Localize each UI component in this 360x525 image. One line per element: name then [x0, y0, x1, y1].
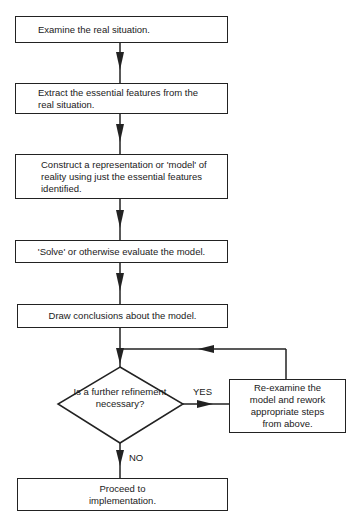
step-solve-text: 'Solve' or otherwise evaluate the model.	[38, 246, 205, 258]
step-construct-text: Construct a representation or 'model' of…	[41, 159, 213, 195]
step-construct: Construct a representation or 'model' of…	[15, 154, 228, 199]
step-extract: Extract the essential features from the …	[15, 83, 228, 114]
no-label: NO	[129, 452, 143, 464]
step-examine-text: Examine the real situation.	[38, 24, 150, 36]
step-solve: 'Solve' or otherwise evaluate the model.	[15, 240, 228, 263]
step-extract-text: Extract the essential features from the …	[38, 87, 213, 111]
step-reexamine-text: Re-examine the model and rework appropri…	[240, 382, 335, 430]
yes-label: YES	[193, 386, 212, 398]
step-implementation-text: Proceed to implementation.	[78, 483, 167, 507]
step-implementation: Proceed to implementation.	[17, 478, 228, 511]
step-reexamine: Re-examine the model and rework appropri…	[229, 379, 346, 433]
step-examine: Examine the real situation.	[15, 16, 228, 43]
step-conclude-text: Draw conclusions about the model.	[49, 310, 197, 322]
step-conclude: Draw conclusions about the model.	[17, 304, 228, 328]
decision-refinement-text: Is a further refinement necessary?	[72, 386, 168, 410]
